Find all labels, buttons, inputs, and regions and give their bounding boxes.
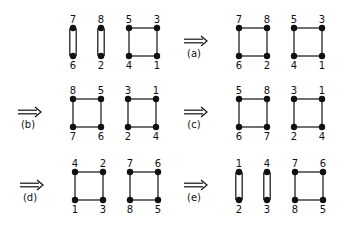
step-label: (c) xyxy=(187,119,200,130)
step-label: (b) xyxy=(21,119,35,130)
vertex-label: 4 xyxy=(126,60,132,71)
vertex-node xyxy=(155,197,161,203)
double-edge-pair: 82 xyxy=(98,14,104,71)
vertex-label: 6 xyxy=(155,158,161,169)
vertex-node xyxy=(153,96,159,102)
vertex-node xyxy=(236,53,242,59)
vertex-label: 2 xyxy=(291,131,297,142)
panel-a: (a)78625341 xyxy=(184,14,325,71)
vertex-node xyxy=(319,53,325,59)
vertex-node xyxy=(236,197,242,203)
vertex-node xyxy=(291,124,297,130)
vertex-label: 3 xyxy=(264,204,270,215)
vertex-label: 2 xyxy=(98,60,104,71)
vertex-label: 8 xyxy=(127,204,133,215)
vertex-label: 6 xyxy=(236,131,242,142)
double-arrow-icon xyxy=(184,36,207,46)
square-cycle: 5341 xyxy=(291,14,325,71)
vertex-node xyxy=(98,124,104,130)
panel-d: (d)42137685 xyxy=(20,158,161,215)
vertex-label: 8 xyxy=(264,14,270,25)
vertex-label: 3 xyxy=(319,14,325,25)
double-edge-pair: 43 xyxy=(264,158,270,215)
step-label: (a) xyxy=(187,48,201,59)
vertex-label: 4 xyxy=(291,60,297,71)
vertex-node xyxy=(264,197,270,203)
vertex-node xyxy=(72,169,78,175)
vertex-label: 3 xyxy=(291,85,297,96)
vertex-label: 2 xyxy=(236,204,242,215)
vertex-label: 8 xyxy=(292,204,298,215)
vertex-label: 8 xyxy=(98,14,104,25)
vertex-node xyxy=(70,96,76,102)
vertex-label: 5 xyxy=(98,85,104,96)
vertex-label: 1 xyxy=(154,60,160,71)
vertex-node xyxy=(126,53,132,59)
vertex-node xyxy=(319,96,325,102)
double-arrow-icon xyxy=(184,180,207,190)
vertex-label: 7 xyxy=(264,131,270,142)
vertex-node xyxy=(154,25,160,31)
panel-initial: 76825341 xyxy=(70,14,160,71)
square-cycle: 5867 xyxy=(236,85,270,142)
vertex-node xyxy=(70,25,76,31)
vertex-label: 2 xyxy=(125,131,131,142)
vertex-node xyxy=(100,197,106,203)
vertex-node xyxy=(291,53,297,59)
vertex-node xyxy=(154,53,160,59)
vertex-node xyxy=(125,124,131,130)
vertex-node xyxy=(291,96,297,102)
vertex-node xyxy=(264,25,270,31)
vertex-node xyxy=(125,96,131,102)
step-label: (e) xyxy=(187,192,201,203)
vertex-label: 4 xyxy=(153,131,159,142)
vertex-node xyxy=(98,25,104,31)
vertex-node xyxy=(155,169,161,175)
vertex-label: 3 xyxy=(125,85,131,96)
vertex-label: 5 xyxy=(155,204,161,215)
vertex-label: 1 xyxy=(236,158,242,169)
vertex-label: 5 xyxy=(236,85,242,96)
vertex-label: 5 xyxy=(291,14,297,25)
square-cycle: 3124 xyxy=(125,85,159,142)
vertex-node xyxy=(264,53,270,59)
vertex-label: 7 xyxy=(127,158,133,169)
vertex-node xyxy=(236,25,242,31)
vertex-label: 2 xyxy=(100,158,106,169)
vertex-label: 3 xyxy=(100,204,106,215)
vertex-node xyxy=(320,197,326,203)
vertex-node xyxy=(319,25,325,31)
vertex-label: 5 xyxy=(126,14,132,25)
vertex-node xyxy=(127,169,133,175)
double-edge-pair: 76 xyxy=(70,14,76,71)
vertex-node xyxy=(98,96,104,102)
vertex-node xyxy=(127,197,133,203)
vertex-node xyxy=(236,96,242,102)
vertex-node xyxy=(291,25,297,31)
panel-c: (c)58673124 xyxy=(184,85,325,142)
square-cycle: 8576 xyxy=(70,85,104,142)
vertex-node xyxy=(98,53,104,59)
vertex-label: 6 xyxy=(70,60,76,71)
square-cycle: 5341 xyxy=(126,14,160,71)
square-cycle: 7862 xyxy=(236,14,270,71)
vertex-node xyxy=(264,96,270,102)
vertex-node xyxy=(100,169,106,175)
step-label: (d) xyxy=(23,192,37,203)
vertex-node xyxy=(236,124,242,130)
double-arrow-icon xyxy=(18,107,41,117)
vertex-label: 4 xyxy=(72,158,78,169)
square-cycle: 7685 xyxy=(127,158,161,215)
vertex-label: 1 xyxy=(319,85,325,96)
double-arrow-icon xyxy=(20,180,43,190)
vertex-node xyxy=(153,124,159,130)
vertex-label: 8 xyxy=(70,85,76,96)
vertex-label: 7 xyxy=(70,14,76,25)
vertex-node xyxy=(236,169,242,175)
vertex-label: 6 xyxy=(236,60,242,71)
double-arrow-icon xyxy=(184,107,207,117)
double-edge-pair: 12 xyxy=(236,158,242,215)
vertex-label: 5 xyxy=(320,204,326,215)
vertex-node xyxy=(320,169,326,175)
vertex-node xyxy=(292,197,298,203)
